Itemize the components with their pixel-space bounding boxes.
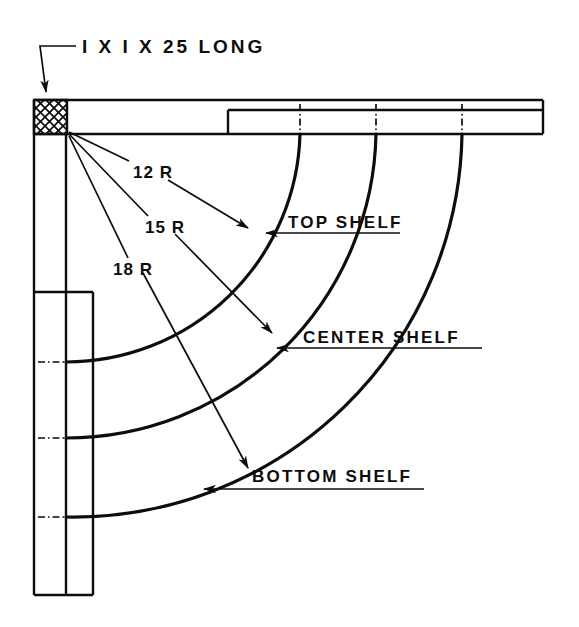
bottom-shelf-label: BOTTOM SHELF bbox=[252, 467, 412, 486]
corner-post-callout-label: I X I X 25 LONG bbox=[82, 36, 265, 57]
radius-12-label: 12 R bbox=[133, 163, 173, 182]
technical-drawing-canvas: I X I X 25 LONG 12 R 15 R 18 R TOP SHELF… bbox=[0, 0, 579, 627]
hatched-corner-post bbox=[34, 100, 67, 134]
left-vertical-rail bbox=[34, 100, 93, 595]
shelf-plan-drawing: I X I X 25 LONG 12 R 15 R 18 R TOP SHELF… bbox=[0, 0, 579, 627]
corner-post-callout-leader bbox=[40, 46, 76, 92]
radius-18-label: 18 R bbox=[113, 260, 153, 279]
center-shelf-label: CENTER SHELF bbox=[303, 328, 460, 347]
radius-15-label: 15 R bbox=[145, 218, 185, 237]
top-horizontal-rail bbox=[34, 100, 543, 134]
top-shelf-label: TOP SHELF bbox=[288, 213, 403, 232]
